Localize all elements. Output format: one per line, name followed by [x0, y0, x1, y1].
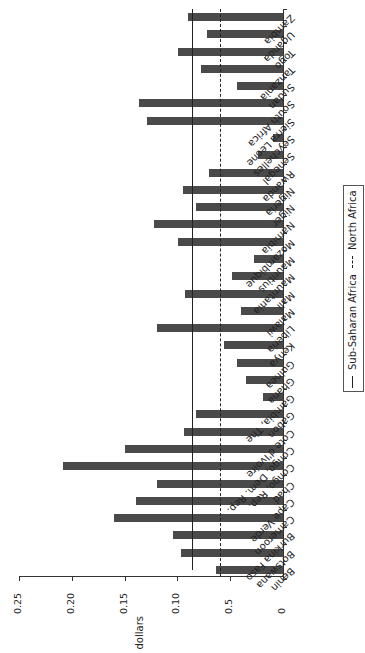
- value-tick: [177, 576, 178, 581]
- value-tick: [283, 576, 284, 581]
- bar: [114, 514, 283, 522]
- category-tick: [283, 371, 287, 372]
- legend-dashed-line-icon: [352, 256, 353, 268]
- value-tick-label: 0: [276, 584, 290, 614]
- category-tick: [283, 268, 287, 269]
- category-tick: [283, 440, 287, 441]
- value-tick-label: 0.20: [65, 584, 79, 614]
- value-tick-label: 0.10: [170, 584, 184, 614]
- category-tick: [283, 285, 287, 286]
- value-tick: [125, 576, 126, 581]
- bar: [188, 13, 283, 21]
- legend-label-north-africa: North Africa: [347, 190, 358, 250]
- value-tick-label: 0.25: [12, 584, 26, 614]
- category-tick: [283, 43, 287, 44]
- category-tick: [283, 147, 287, 148]
- category-tick: [283, 319, 287, 320]
- category-tick: [283, 216, 287, 217]
- value-tick: [19, 576, 20, 581]
- category-tick: [283, 423, 287, 424]
- category-tick: [283, 527, 287, 528]
- bar: [139, 99, 283, 107]
- category-tick: [283, 60, 287, 61]
- bar: [125, 445, 283, 453]
- bar: [201, 65, 283, 73]
- value-tick: [230, 576, 231, 581]
- legend-label-sub-saharan: Sub-Saharan Africa: [347, 274, 358, 370]
- category-tick: [283, 475, 287, 476]
- category-tick: [283, 458, 287, 459]
- sub-saharan-africa-line: [192, 9, 193, 570]
- category-tick: [283, 354, 287, 355]
- bar: [154, 220, 283, 228]
- value-axis-title: dollars: [134, 616, 145, 649]
- category-tick: [283, 389, 287, 390]
- category-tick: [283, 112, 287, 113]
- category-tick: [283, 164, 287, 165]
- category-tick: [283, 198, 287, 199]
- rotated-bar-chart: BeninBotswanaBurkina FasoCameroonCape Ve…: [0, 0, 365, 653]
- category-tick: [283, 250, 287, 251]
- value-tick-label: 0.15: [118, 584, 132, 614]
- legend: Sub-Saharan Africa North Africa: [343, 185, 364, 392]
- legend-solid-line-icon: [352, 376, 353, 388]
- category-tick: [283, 561, 287, 562]
- category-tick: [283, 233, 287, 234]
- value-tick: [72, 576, 73, 581]
- category-tick: [283, 544, 287, 545]
- category-tick: [283, 129, 287, 130]
- category-tick: [283, 492, 287, 493]
- value-tick-label: 0.5: [223, 584, 237, 614]
- category-tick: [283, 406, 287, 407]
- category-tick: [283, 95, 287, 96]
- category-tick: [283, 77, 287, 78]
- category-tick: [283, 181, 287, 182]
- category-tick: [283, 510, 287, 511]
- category-tick: [283, 26, 287, 27]
- category-tick: [283, 337, 287, 338]
- category-tick: [283, 9, 287, 10]
- category-tick: [283, 302, 287, 303]
- north-africa-line: [220, 9, 221, 576]
